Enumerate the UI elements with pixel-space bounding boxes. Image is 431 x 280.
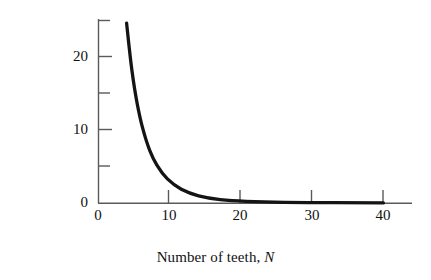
x-axis-label: Number of teeth, N (0, 249, 431, 266)
x-axis-label-text: Number of teeth, (157, 249, 265, 265)
y-tick-label-20: 20 (62, 48, 88, 65)
x-tick-label-10: 10 (154, 207, 184, 224)
chordal-speed-variation-figure: Chordal speed variation, % Number of tee… (0, 0, 431, 280)
x-axis-label-variable: N (264, 249, 274, 265)
x-tick-label-0: 0 (83, 207, 113, 224)
x-tick-label-20: 20 (225, 207, 255, 224)
plot-area (0, 0, 431, 280)
data-curve (127, 23, 384, 203)
y-axis-ticks (99, 21, 113, 167)
y-tick-label-10: 10 (62, 121, 88, 138)
x-tick-label-30: 30 (297, 207, 327, 224)
x-tick-label-40: 40 (368, 207, 398, 224)
axis-lines (98, 19, 412, 203)
